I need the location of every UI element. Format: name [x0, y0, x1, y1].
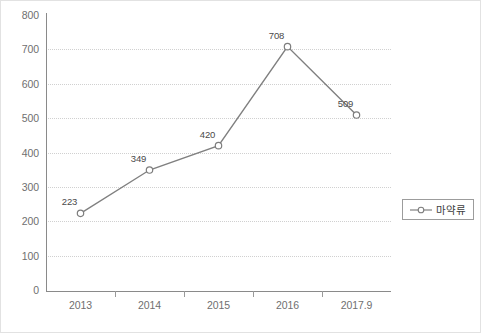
- legend-line-marker-icon: [410, 205, 432, 215]
- data-point-marker[interactable]: [215, 142, 221, 148]
- data-point-marker[interactable]: [353, 112, 359, 118]
- x-axis-tick-mark: [184, 291, 185, 297]
- y-axis-tick-label: 0: [0, 284, 39, 296]
- x-axis-tick-mark: [115, 291, 116, 297]
- data-point-marker[interactable]: [77, 210, 83, 216]
- x-axis-tick-label: 2013: [46, 299, 116, 311]
- x-axis-tick-label: 2015: [184, 299, 254, 311]
- x-axis-tick-label: 2014: [115, 299, 185, 311]
- x-axis-tick-label: 2016: [253, 299, 323, 311]
- x-axis-tick-label: 2017.9: [322, 299, 392, 311]
- chart-legend[interactable]: 마약류: [402, 199, 474, 220]
- x-axis-line: [46, 291, 391, 292]
- series-line: [81, 47, 357, 214]
- x-axis-tick-mark: [253, 291, 254, 297]
- x-axis-tick-mark: [322, 291, 323, 297]
- data-point-label: 708: [269, 30, 284, 41]
- y-axis-tick-label: 300: [0, 181, 39, 193]
- legend-entry-label: 마약류: [436, 202, 466, 217]
- y-axis-tick-label: 200: [0, 215, 39, 227]
- line-chart-figure: 0100200300400500600700800 20132014201520…: [0, 0, 481, 333]
- y-axis-tick-label: 100: [0, 250, 39, 262]
- y-axis-tick-label: 800: [0, 9, 39, 21]
- y-axis-tick-label: 400: [0, 147, 39, 159]
- data-point-marker[interactable]: [146, 167, 152, 173]
- y-axis-tick-label: 600: [0, 78, 39, 90]
- data-point-label: 420: [200, 129, 215, 140]
- y-axis-tick-label: 700: [0, 43, 39, 55]
- data-point-label: 349: [131, 153, 146, 164]
- data-point-label: 223: [62, 196, 77, 207]
- series-marker-group: [46, 15, 391, 291]
- y-axis-tick-label: 500: [0, 112, 39, 124]
- data-point-marker[interactable]: [284, 43, 290, 49]
- y-axis-tick-labels: 0100200300400500600700800: [1, 15, 39, 290]
- data-point-label: 509: [338, 98, 353, 109]
